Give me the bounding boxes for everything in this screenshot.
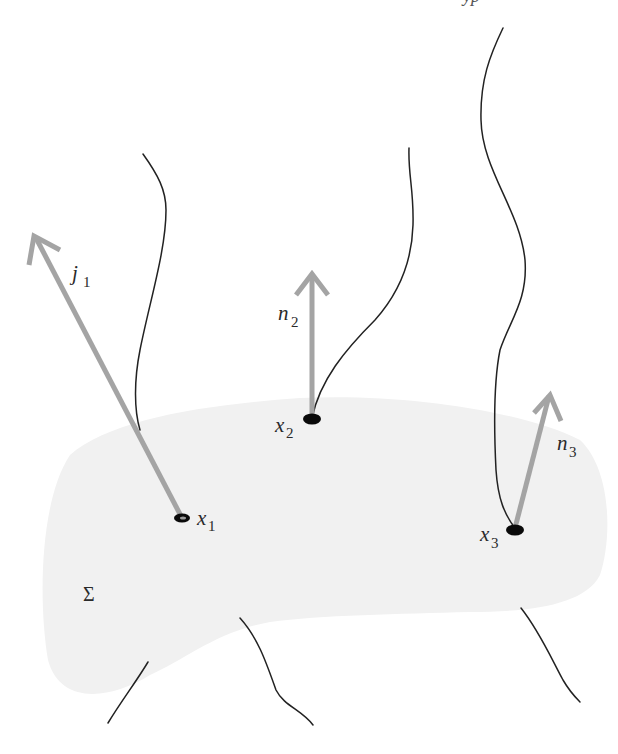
header-fragment: yp (461, 0, 480, 6)
label-n2: n 2 (278, 301, 299, 330)
label-j1: j 1 (69, 261, 91, 290)
svg-text:n: n (278, 301, 289, 325)
svg-text:1: 1 (83, 274, 91, 290)
curve-2-upper (312, 148, 413, 418)
svg-text:j: j (69, 261, 78, 285)
curve-1-upper (136, 154, 167, 430)
svg-text:3: 3 (491, 535, 499, 551)
svg-text:2: 2 (291, 314, 299, 330)
svg-text:3: 3 (569, 444, 577, 460)
vector-n2 (296, 274, 328, 418)
svg-text:2: 2 (286, 425, 294, 441)
label-sigma: Σ (83, 583, 95, 605)
svg-text:x: x (196, 506, 207, 530)
svg-text:1: 1 (208, 518, 216, 534)
svg-text:x: x (274, 413, 285, 437)
point-x3 (506, 525, 524, 536)
curve-2-lower (240, 618, 313, 725)
svg-text:n: n (557, 431, 568, 455)
surface-diagram: yp j 1 n 2 n 3 x 1 (0, 0, 618, 754)
surface-sigma (43, 397, 608, 694)
point-x2 (303, 414, 321, 425)
point-x1-highlight (180, 517, 186, 520)
curve-3-lower (521, 608, 580, 702)
svg-text:x: x (479, 522, 490, 546)
